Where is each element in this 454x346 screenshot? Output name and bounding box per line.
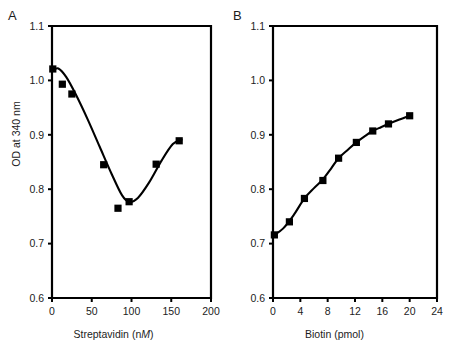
panel-a-data-point [114, 205, 121, 212]
panel-a-data-point [153, 161, 160, 168]
panel-b-xaxis-suffix: ) [360, 328, 364, 340]
panel-b-data-point [385, 120, 392, 127]
panel-a-xtick-label: 150 [162, 305, 180, 317]
panel-b-data-point [301, 195, 308, 202]
panel-b-plot-group: 0.60.70.80.91.01.104812162024 [250, 20, 443, 317]
panel-b-data-point [319, 177, 326, 184]
panel-a-data-point [49, 65, 56, 72]
figure-container: A 0.60.70.80.91.01.1050100150200 OD at 3… [0, 0, 454, 346]
panel-b-xtick-label: 12 [349, 305, 361, 317]
panel-b-data-point [335, 155, 342, 162]
panel-a-data-point [126, 198, 133, 205]
panel-b-ytick-label: 1.1 [250, 20, 265, 32]
panel-b-data-point [271, 231, 278, 238]
panel-b-xtick-label: 24 [431, 305, 443, 317]
panel-b-xtick-label: 20 [404, 305, 416, 317]
panel-a-ytick-label: 1.1 [29, 20, 44, 32]
panel-a-fit-curve [52, 68, 182, 202]
panel-a-xtick-label: 200 [202, 305, 220, 317]
panel-a-data-point [100, 161, 107, 168]
panel-a-xaxis-unit-italic: M [141, 328, 150, 340]
panel-b-xtick-label: 0 [270, 305, 276, 317]
panel-b-ytick-label: 1.0 [250, 74, 265, 86]
panel-b-xtick-label: 8 [325, 305, 331, 317]
panel-a-data-point [59, 81, 66, 88]
panel-a-xaxis-text: Streptavidin (n [74, 328, 142, 340]
panel-a-data-point [68, 90, 75, 97]
panel-a-plot-group: 0.60.70.80.91.01.1050100150200 [29, 20, 220, 317]
panel-a-ytick-label: 0.6 [29, 292, 44, 304]
panel-b-xtick-label: 16 [376, 305, 388, 317]
panel-a-plot: 0.60.70.80.91.01.1050100150200 [0, 0, 227, 346]
panel-b-plot: 0.60.70.80.91.01.104812162024 [227, 0, 454, 346]
panel-a-ytick-label: 1.0 [29, 74, 44, 86]
panel-a-ytick-label: 0.8 [29, 183, 44, 195]
panel-b-fit-curve [274, 116, 409, 235]
panel-a-data-point [176, 137, 183, 144]
panel-a-axis-frame [52, 26, 211, 298]
panel-a-xtick-label: 50 [86, 305, 98, 317]
panel-b-ytick-label: 0.6 [250, 292, 265, 304]
panel-a: A 0.60.70.80.91.01.1050100150200 OD at 3… [0, 0, 227, 346]
panel-a-xtick-label: 100 [123, 305, 141, 317]
panel-b-data-point [369, 127, 376, 134]
panel-b-data-point [286, 218, 293, 225]
panel-a-xaxis-suffix: ) [150, 328, 154, 340]
panel-b-data-point [353, 139, 360, 146]
panel-a-ytick-label: 0.9 [29, 129, 44, 141]
panel-b-xtick-label: 4 [297, 305, 303, 317]
panel-b-ytick-label: 0.8 [250, 183, 265, 195]
panel-a-xaxis-title: Streptavidin (nM) [0, 328, 227, 340]
panel-a-xtick-label: 0 [49, 305, 55, 317]
panel-b-data-point [406, 112, 413, 119]
panel-b-axis-frame [273, 26, 437, 298]
panel-b: B 0.60.70.80.91.01.104812162024 Biotin (… [227, 0, 454, 346]
panel-b-ytick-label: 0.9 [250, 129, 265, 141]
panel-a-yaxis-title: OD at 340 nm [10, 74, 22, 194]
panel-a-ytick-label: 0.7 [29, 237, 44, 249]
panel-b-xaxis-text: Biotin (pmol [305, 328, 360, 340]
panel-b-ytick-label: 0.7 [250, 237, 265, 249]
panel-b-xaxis-title: Biotin (pmol) [221, 328, 448, 340]
